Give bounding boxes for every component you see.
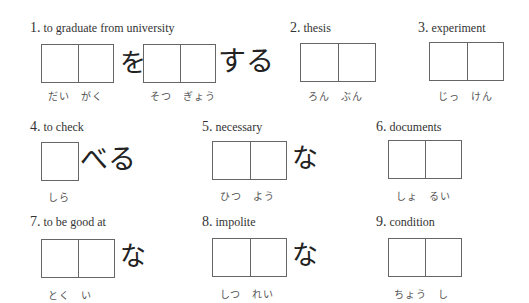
- answer-box-9[interactable]: [388, 238, 462, 277]
- item-prompt: condition: [390, 215, 435, 229]
- item-number: 4.: [30, 119, 41, 134]
- item-9-label: 9. condition: [376, 214, 435, 230]
- answer-box-1b[interactable]: [143, 44, 216, 83]
- reading-6: しょ るい: [396, 188, 451, 203]
- item-prompt: impolite: [216, 215, 256, 229]
- suffix-suru: する: [218, 48, 274, 76]
- suffix-beru: べる: [80, 146, 136, 174]
- reading-1b: そつ ぎょう: [150, 88, 216, 103]
- reading-7: とく い: [48, 287, 92, 302]
- reading-3: じっ けん: [438, 88, 493, 103]
- answer-box-8[interactable]: [212, 238, 287, 277]
- item-prompt: to check: [44, 120, 84, 134]
- answer-box-7[interactable]: [41, 239, 115, 278]
- item-number: 3.: [418, 20, 429, 35]
- item-number: 2.: [290, 20, 301, 35]
- item-1-label: 1. to graduate from university: [30, 20, 174, 36]
- item-6-label: 6. documents: [376, 119, 442, 135]
- item-number: 7.: [30, 214, 41, 229]
- reading-8: しつ れい: [220, 286, 274, 301]
- answer-box-1a[interactable]: [41, 44, 114, 83]
- item-5-label: 5. necessary: [202, 119, 262, 135]
- item-prompt: experiment: [432, 21, 486, 35]
- item-8-label: 8. impolite: [202, 214, 256, 230]
- item-prompt: to be good at: [44, 215, 106, 229]
- answer-box-5[interactable]: [212, 141, 287, 180]
- item-number: 9.: [376, 214, 387, 229]
- item-7-label: 7. to be good at: [30, 214, 106, 230]
- suffix-na: な: [292, 145, 318, 171]
- reading-2: ろん ぶん: [308, 88, 363, 103]
- answer-box-4[interactable]: [41, 142, 79, 181]
- reading-5: ひつ よう: [220, 188, 275, 203]
- answer-box-3[interactable]: [429, 42, 504, 81]
- item-number: 1.: [30, 20, 41, 35]
- reading-1a: だい がく: [48, 88, 103, 103]
- item-prompt: to graduate from university: [44, 21, 175, 35]
- item-number: 5.: [202, 119, 213, 134]
- item-prompt: necessary: [216, 120, 263, 134]
- item-4-label: 4. to check: [30, 119, 84, 135]
- reading-9: ちょう し: [394, 286, 449, 301]
- suffix-na: な: [120, 243, 146, 269]
- suffix-na: な: [292, 242, 318, 268]
- answer-box-6[interactable]: [388, 140, 462, 179]
- reading-4: しら: [48, 189, 70, 204]
- item-number: 6.: [376, 119, 387, 134]
- item-prompt: documents: [390, 120, 442, 134]
- item-number: 8.: [202, 214, 213, 229]
- item-3-label: 3. experiment: [418, 20, 485, 36]
- answer-box-2[interactable]: [300, 43, 376, 82]
- item-prompt: thesis: [304, 21, 331, 35]
- item-2-label: 2. thesis: [290, 20, 331, 36]
